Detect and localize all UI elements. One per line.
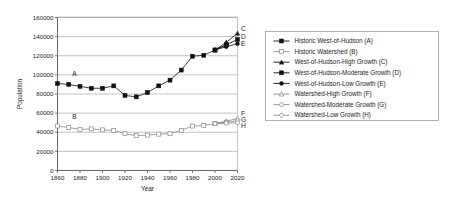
x-tick-label: 1960 (163, 174, 177, 181)
series-A (56, 43, 229, 99)
x-tick-label: 2000 (208, 174, 222, 181)
series-label-A: A (72, 70, 77, 77)
legend: Historic West-of-Hudson (A)Historic Wate… (266, 32, 439, 121)
legend-label: Watershed-High Growth (F) (295, 90, 372, 98)
data-point-marker (78, 127, 82, 131)
data-point-marker (101, 86, 105, 90)
data-point-marker (146, 91, 150, 95)
data-point-marker (179, 68, 183, 72)
legend-label: West-of-Hudson-Moderate Growth (D) (295, 69, 402, 77)
data-point-marker (280, 71, 284, 75)
data-point-marker (236, 121, 240, 125)
x-tick-label: 1880 (73, 174, 87, 181)
data-point-marker (56, 124, 60, 128)
population-projection-chart: 0200004000060000800001000001200001400001… (0, 0, 451, 204)
data-point-marker (213, 122, 217, 126)
y-tick-label: 80000 (36, 90, 54, 97)
x-tick-label: 1940 (141, 174, 155, 181)
y-tick-label: 100000 (33, 71, 54, 78)
y-tick-label: 160000 (33, 14, 54, 21)
legend-label: Historic Watershed (B) (295, 48, 358, 56)
data-point-marker (101, 128, 105, 132)
data-point-marker (89, 127, 93, 131)
data-point-marker (202, 124, 206, 128)
data-point-marker (78, 84, 82, 88)
data-point-marker (280, 39, 284, 43)
data-point-marker (236, 37, 240, 41)
y-tick-label: 0 (50, 167, 54, 174)
data-point-marker (179, 128, 183, 132)
legend-label: West-of-Hudson-High Growth (C) (295, 58, 388, 66)
data-point-marker (280, 103, 284, 107)
axes: 0200004000060000800001000001200001400001… (16, 14, 245, 192)
data-point-marker (224, 121, 228, 125)
data-point-marker (280, 50, 284, 54)
legend-label: West-of-Hudson-Low Growth (E) (295, 80, 386, 88)
data-point-marker (224, 45, 228, 49)
data-point-marker (235, 31, 240, 35)
y-tick-label: 20000 (36, 148, 54, 155)
data-point-marker (157, 132, 161, 136)
series-line (58, 45, 227, 97)
data-point-marker (191, 54, 195, 58)
data-point-marker (280, 113, 284, 117)
series-label-H: H (241, 122, 246, 129)
series-label-B: B (72, 113, 77, 120)
data-point-marker (112, 128, 116, 132)
y-axis-title: Population (16, 78, 24, 109)
y-tick-label: 60000 (36, 109, 54, 116)
data-point-marker (134, 134, 138, 138)
x-tick-label: 1920 (118, 174, 132, 181)
data-point-marker (202, 53, 206, 57)
data-point-marker (146, 133, 150, 137)
series-B (56, 120, 229, 137)
data-point-marker (134, 95, 138, 99)
x-tick-label: 1980 (186, 174, 200, 181)
data-point-marker (168, 78, 172, 82)
data-point-marker (280, 81, 284, 85)
data-point-marker (89, 86, 93, 90)
x-tick-label: 2020 (231, 174, 245, 181)
data-point-marker (67, 125, 71, 129)
legend-label: Watershed-Low Growth (H) (295, 111, 371, 119)
data-point-marker (67, 82, 71, 86)
chart-canvas: 0200004000060000800001000001200001400001… (0, 0, 451, 204)
data-point-marker (123, 93, 127, 97)
series-label-E: E (241, 40, 246, 47)
data-point-marker (236, 42, 240, 46)
legend-label: Watershed-Moderate Growth (G) (295, 101, 387, 109)
data-point-marker (191, 124, 195, 128)
series-label-C: C (241, 25, 246, 32)
x-tick-label: 1860 (51, 174, 65, 181)
legend-label: Historic West-of-Hudson (A) (295, 37, 373, 45)
data-point-marker (157, 84, 161, 88)
y-tick-label: 40000 (36, 128, 54, 135)
gridlines (58, 18, 238, 152)
series-layer (56, 31, 240, 138)
x-tick-label: 1900 (96, 174, 110, 181)
data-point-marker (168, 132, 172, 136)
data-point-marker (213, 48, 217, 52)
data-point-marker (123, 132, 127, 136)
y-tick-label: 120000 (33, 52, 54, 59)
data-point-marker (56, 81, 60, 85)
series-line (58, 122, 227, 135)
x-axis-title: Year (141, 185, 155, 192)
y-tick-label: 140000 (33, 33, 54, 40)
data-point-marker (112, 84, 116, 88)
